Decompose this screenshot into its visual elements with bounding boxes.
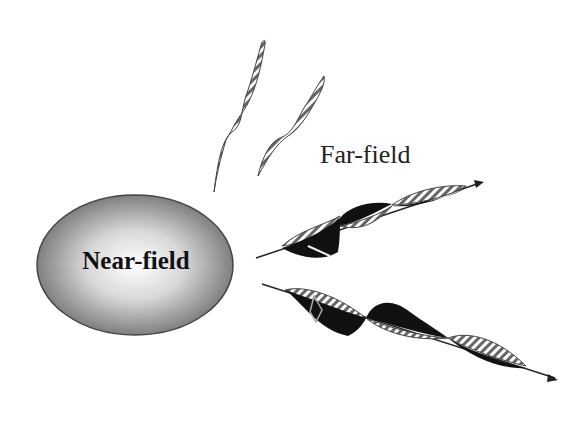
near-field-label: Near-field	[38, 247, 234, 275]
upper-left-wave	[214, 40, 265, 192]
far-wave-2	[262, 284, 558, 382]
far-field-label: Far-field	[320, 140, 410, 170]
upper-right-wave	[258, 76, 324, 176]
diagram-graphics	[0, 0, 580, 426]
far-wave-1	[256, 180, 484, 258]
diagram-canvas: Near-field Far-field	[0, 0, 580, 426]
